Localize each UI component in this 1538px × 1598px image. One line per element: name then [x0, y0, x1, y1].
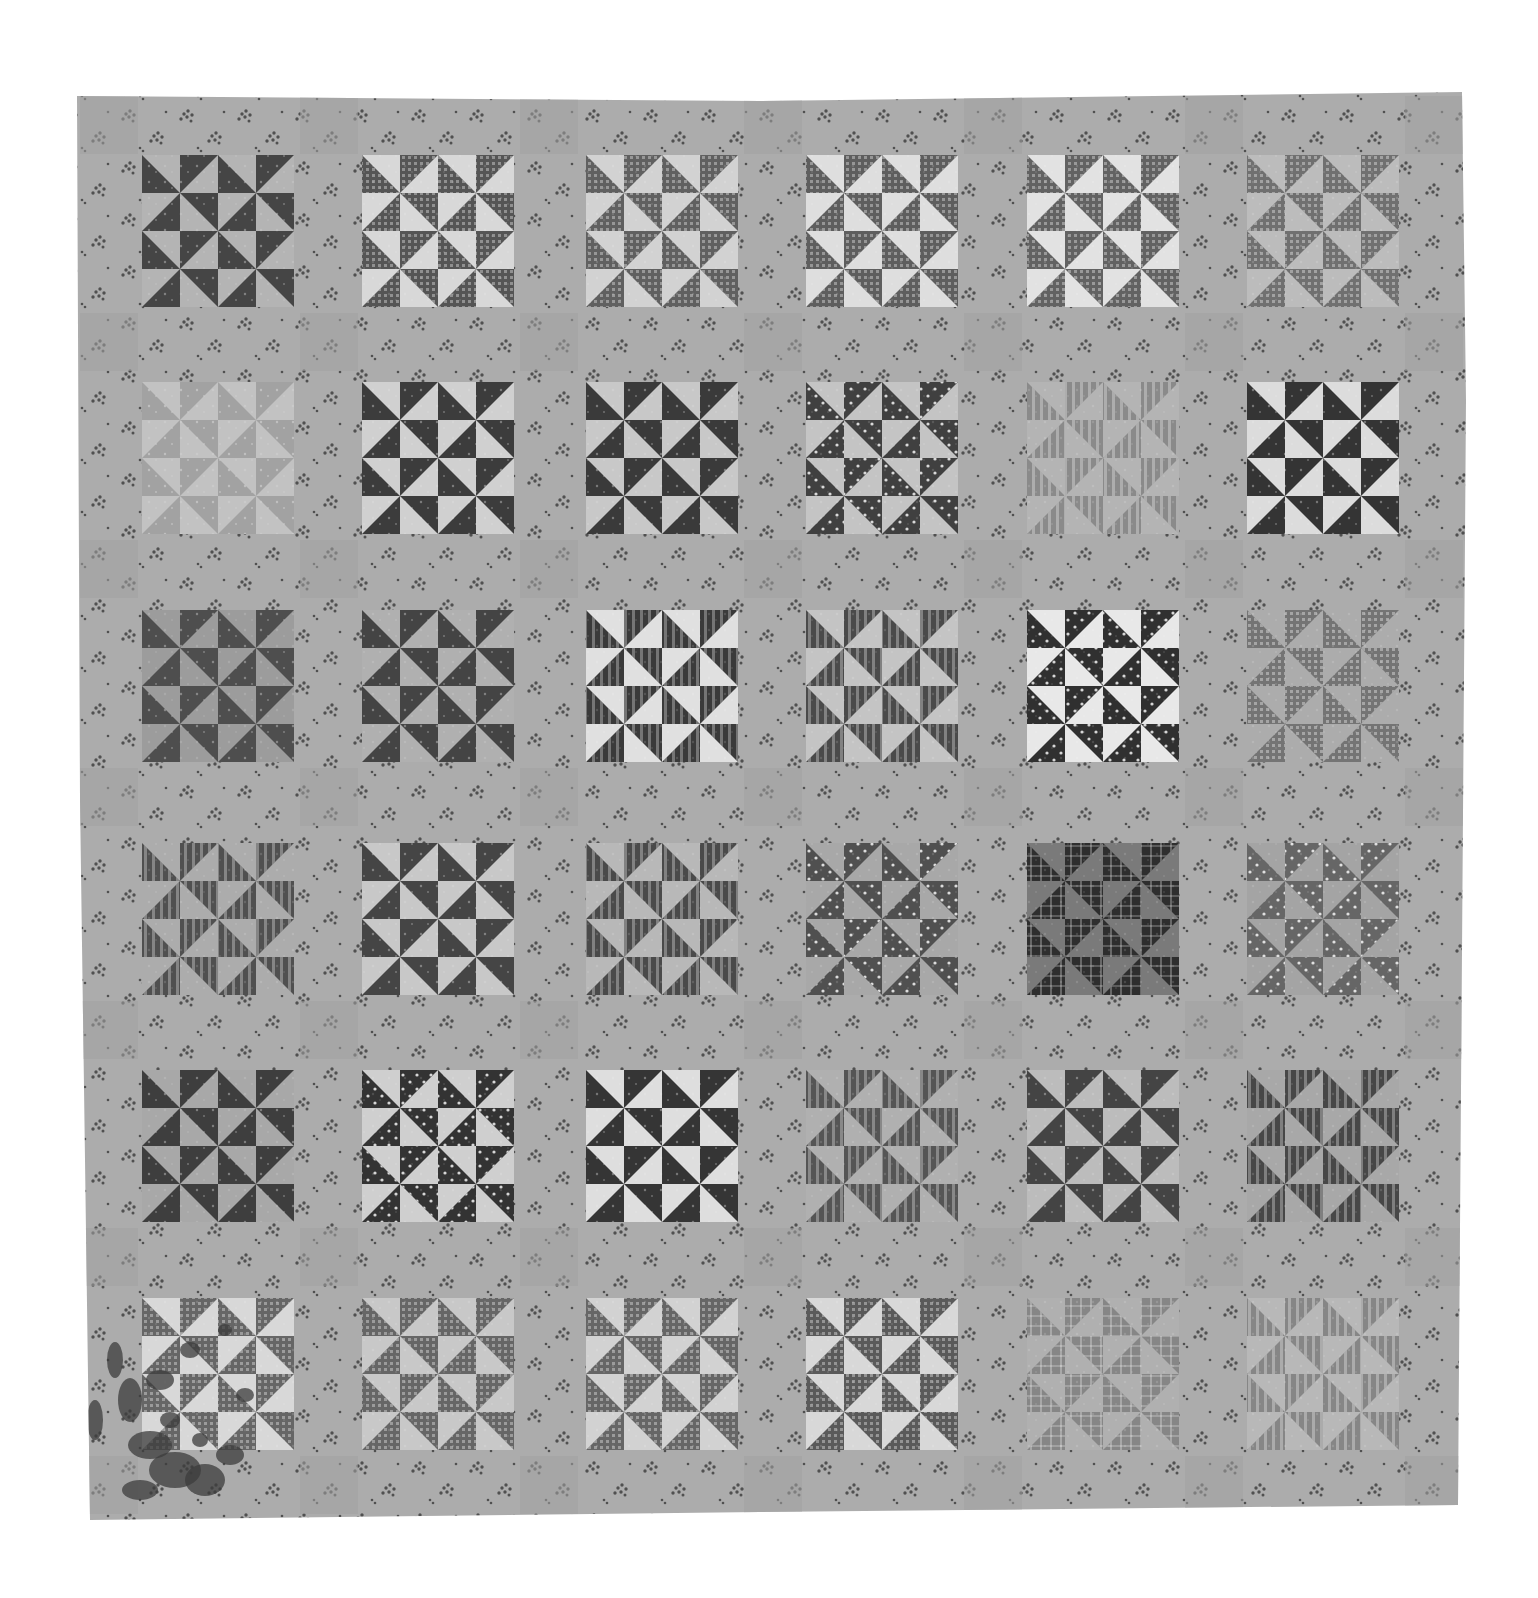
cornerstone — [1405, 540, 1463, 598]
quilt-block — [806, 155, 958, 307]
cornerstone — [300, 96, 358, 154]
quilt-block — [1027, 1298, 1179, 1450]
cornerstone — [1185, 1228, 1243, 1286]
cornerstone — [1405, 96, 1463, 154]
cornerstone — [80, 96, 138, 154]
quilt-block — [1247, 155, 1399, 307]
cornerstone — [520, 540, 578, 598]
quilt-block — [1247, 382, 1399, 534]
quilt-block — [806, 610, 958, 762]
cornerstone — [1185, 540, 1243, 598]
cornerstone — [1405, 1001, 1463, 1059]
cornerstone — [80, 313, 138, 371]
quilt-block — [1247, 843, 1399, 995]
cornerstone — [744, 1456, 802, 1514]
cornerstone — [520, 768, 578, 826]
quilt-block — [806, 382, 958, 534]
cornerstone — [300, 1001, 358, 1059]
quilt-block — [1247, 1070, 1399, 1222]
quilt-block — [142, 1070, 294, 1222]
cornerstone — [1185, 768, 1243, 826]
cornerstone — [1185, 1456, 1243, 1514]
cornerstone — [744, 313, 802, 371]
quilt-block — [362, 1070, 514, 1222]
quilt-block — [1027, 610, 1179, 762]
cornerstone — [80, 768, 138, 826]
quilt-block — [142, 843, 294, 995]
quilt-block — [1247, 1298, 1399, 1450]
cornerstone — [80, 540, 138, 598]
quilt-block — [142, 382, 294, 534]
cornerstone — [744, 1228, 802, 1286]
cornerstone — [1185, 313, 1243, 371]
quilt-photograph — [0, 0, 1538, 1598]
quilt-block — [1027, 155, 1179, 307]
quilt-block — [586, 1070, 738, 1222]
quilt-block — [586, 843, 738, 995]
cornerstone — [964, 768, 1022, 826]
quilt-block — [586, 1298, 738, 1450]
quilt-block — [362, 155, 514, 307]
quilt-block — [362, 843, 514, 995]
cornerstone — [744, 1001, 802, 1059]
cornerstone — [1185, 96, 1243, 154]
quilt-block — [1027, 843, 1179, 995]
quilt-block — [806, 1298, 958, 1450]
cornerstone — [300, 1456, 358, 1514]
cornerstone — [300, 768, 358, 826]
cornerstone — [744, 768, 802, 826]
quilt-block — [1027, 382, 1179, 534]
quilt-block — [586, 610, 738, 762]
cornerstone — [520, 1228, 578, 1286]
quilt-block — [362, 1298, 514, 1450]
cornerstone — [520, 313, 578, 371]
cornerstone — [744, 96, 802, 154]
cornerstone — [1405, 768, 1463, 826]
quilt-block — [806, 1070, 958, 1222]
quilt-block — [142, 155, 294, 307]
cornerstone — [520, 1001, 578, 1059]
cornerstone — [80, 1228, 138, 1286]
cornerstone — [520, 1456, 578, 1514]
cornerstone — [300, 1228, 358, 1286]
cornerstone — [300, 313, 358, 371]
cornerstone — [80, 1001, 138, 1059]
quilt-block — [1247, 610, 1399, 762]
cornerstone — [1405, 1228, 1463, 1286]
cornerstone — [964, 313, 1022, 371]
cornerstone — [964, 1456, 1022, 1514]
quilt-block — [586, 155, 738, 307]
quilt — [0, 0, 1538, 1598]
cornerstone — [300, 540, 358, 598]
cornerstone — [964, 1001, 1022, 1059]
quilt-block — [142, 610, 294, 762]
quilt-block — [806, 843, 958, 995]
cornerstone — [1405, 313, 1463, 371]
cornerstone — [964, 1228, 1022, 1286]
cornerstone — [520, 96, 578, 154]
cornerstone — [964, 96, 1022, 154]
quilt-block — [362, 610, 514, 762]
quilt-block — [586, 382, 738, 534]
cornerstone — [744, 540, 802, 598]
quilt-block — [362, 382, 514, 534]
cornerstone — [1405, 1456, 1463, 1514]
cornerstone — [964, 540, 1022, 598]
quilt-block — [1027, 1070, 1179, 1222]
cornerstone — [1185, 1001, 1243, 1059]
